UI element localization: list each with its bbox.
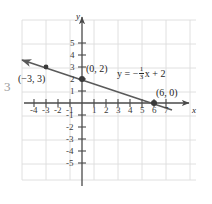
equation-fraction: 13 [139,66,145,82]
y-tick-label: 5 [70,39,75,48]
y-axis [78,17,86,186]
y-tick-label: 2 [70,75,75,84]
equation-constant: 2 [160,69,165,79]
data-point [79,76,85,82]
data-point [44,65,49,70]
x-tick-label: 1 [92,106,97,115]
graph-figure: 3 [0,0,212,204]
y-tick-label: -2 [66,123,74,132]
coordinate-plane: -4 -3 -2 -1 1 2 3 4 5 6 7 5 4 3 2 1 -1 -… [0,0,212,204]
y-tick-label: -5 [66,159,74,168]
x-tick-label: 7 [164,106,169,115]
point-label-a: (−3, 3) [18,74,45,84]
equation-label: y = −13x + 2 [117,66,165,82]
fraction-numerator: 1 [139,66,145,73]
y-axis-name: y [76,12,80,21]
grid-lines [22,20,196,180]
x-tick-label: -4 [30,106,38,115]
point-label-c: (6, 0) [156,88,178,98]
x-tick-label: 5 [140,106,145,115]
x-tick-label: 4 [128,106,133,115]
x-tick-label: 6 [152,106,157,115]
y-tick-label: -3 [66,135,74,144]
x-tick-label: -2 [54,106,62,115]
point-label-b: (0, 2) [86,64,108,74]
x-tick-label: 3 [116,106,121,115]
y-tick-label: -4 [66,147,74,156]
equation-variable: x [145,69,150,79]
equation-sign: − [133,69,139,79]
y-tick-label: 3 [70,63,75,72]
y-tick-label: 4 [70,51,75,60]
y-tick-label: 1 [70,87,75,96]
equation-lhs: y [117,69,122,79]
x-tick-label: -3 [42,106,50,115]
graph-svg [0,0,212,204]
equation-equals: = [125,69,131,79]
y-tick-label: -1 [66,111,74,120]
x-axis-name: x [192,106,196,115]
x-tick-label: 2 [104,106,109,115]
fraction-denominator: 3 [139,73,145,81]
equation-plus: + [152,69,158,79]
